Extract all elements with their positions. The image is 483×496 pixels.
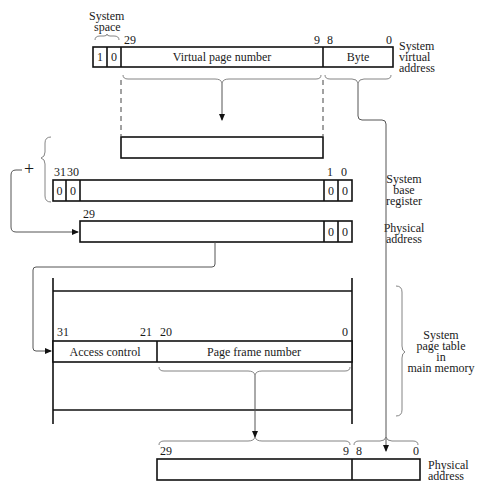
bit-label-9: 9 [314,33,320,47]
base-bit-0: 0 [342,184,348,198]
pfn-target-brace [159,437,350,445]
bit-label-8: 8 [327,33,333,47]
system-space-label-line2: space [94,20,121,34]
physical-address-label-line2: address [428,469,464,483]
physical-address-intermediate-register: 29 0 0 Physical address [80,207,425,246]
page-table-brace [396,286,405,416]
base-bit-1: 0 [328,184,334,198]
bit-label-8: 8 [356,444,362,458]
system-virtual-address-register: System space 29 9 8 0 1 0 Virtual page n… [89,9,435,83]
system-space-brace [95,34,119,40]
base-register-box [53,180,352,201]
byte-field: Byte [347,50,370,64]
bit-label-31: 31 [54,165,66,179]
adder-brace [41,137,51,202]
system-virtual-address-label-line3: address [399,61,435,75]
bit-label-31: 31 [57,325,69,339]
physical-address-label-line2: address [386,232,422,246]
system-space-bit-0: 0 [111,50,117,64]
pa-bit-1: 0 [328,225,334,239]
system-base-register-label-line3: register [386,194,422,208]
system-page-table: 31 21 20 0 Access control Page frame num… [53,278,474,424]
base-bit-30: 0 [70,184,76,198]
system-virtual-address-translation-diagram: System space 29 9 8 0 1 0 Virtual page n… [0,0,483,496]
access-control-field: Access control [70,345,142,359]
bit-label-30: 30 [67,165,79,179]
page-frame-number-field: Page frame number [207,345,301,359]
intermediate-physical-address-box [80,221,352,242]
bit-label-20: 20 [160,325,172,339]
physical-address-final-register: 29 9 8 0 Physical address [157,437,469,483]
vpn-index-box [121,137,323,158]
bit-label-0: 0 [342,325,348,339]
physical-address-box [157,459,420,480]
bit-label-0: 0 [341,165,347,179]
bit-label-29: 29 [160,444,172,458]
vpn-brace [123,75,321,83]
bit-label-0: 0 [386,33,392,47]
pfn-brace [159,367,350,375]
pa-bit-0: 0 [342,225,348,239]
bit-label-0: 0 [413,444,419,458]
base-bit-31: 0 [57,184,63,198]
bit-label-29: 29 [83,207,95,221]
byte-brace [325,75,391,83]
bit-label-21: 21 [140,325,152,339]
plus-icon: + [24,159,34,179]
bit-label-1: 1 [327,165,333,179]
byte-offset-arrow [358,83,386,451]
virtual-page-number-field: Virtual page number [173,50,272,64]
system-space-bit-1: 1 [97,50,103,64]
page-table-label-line4: main memory [408,361,475,375]
bit-label-29: 29 [124,33,136,47]
bit-label-9: 9 [343,444,349,458]
